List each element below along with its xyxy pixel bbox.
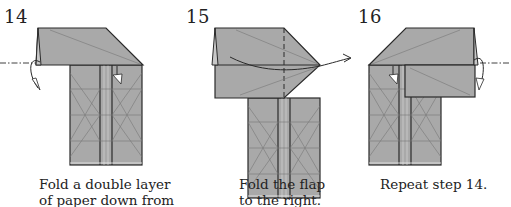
step-number: 14	[4, 6, 28, 27]
step-caption: Repeat step 14.	[380, 176, 487, 192]
step-caption: Fold the flap to the right.	[239, 176, 325, 207]
step-caption: Fold a double layer of paper down from	[39, 176, 174, 207]
step-14: 14 Fold a double layer of paper down fro…	[0, 0, 170, 207]
step-16: 16 Repeat step 14.	[340, 0, 511, 207]
step-number: 15	[186, 6, 210, 27]
step-15: 15 Fold the flap to the right.	[170, 0, 340, 207]
step-number: 16	[358, 6, 382, 27]
